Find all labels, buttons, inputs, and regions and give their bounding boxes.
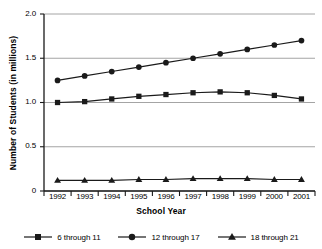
marker-circle xyxy=(272,42,278,48)
chart-container: 00.51.01.52.0 19921993199419951996199719… xyxy=(0,0,322,249)
legend-marker-circle xyxy=(117,231,147,243)
legend-item: 6 through 11 xyxy=(23,231,100,243)
legend-marker-triangle xyxy=(217,231,247,243)
x-tick-label: 2001 xyxy=(285,192,317,201)
marker-square xyxy=(245,90,250,95)
chart-legend: 6 through 1112 through 1718 through 21 xyxy=(0,231,322,243)
x-axis-title: School Year xyxy=(0,206,322,216)
y-axis-title: Number of Students (in millions) xyxy=(8,18,18,188)
marker-square xyxy=(136,94,141,99)
marker-circle xyxy=(129,234,135,240)
y-tick-label: 2.0 xyxy=(10,9,36,18)
series-line xyxy=(58,179,302,181)
marker-square xyxy=(299,96,304,101)
marker-circle xyxy=(136,64,142,70)
marker-circle xyxy=(82,73,88,79)
marker-square xyxy=(190,90,195,95)
marker-circle xyxy=(109,69,115,75)
marker-circle xyxy=(244,47,250,53)
marker-circle xyxy=(299,38,305,44)
marker-circle xyxy=(55,78,61,84)
series-18-through-21 xyxy=(54,175,305,183)
series-12-through-17 xyxy=(55,38,305,84)
marker-circle xyxy=(190,55,196,61)
marker-square xyxy=(35,234,41,240)
legend-item: 18 through 21 xyxy=(217,231,299,243)
series-line xyxy=(58,92,302,103)
marker-square xyxy=(272,93,277,98)
legend-item: 12 through 17 xyxy=(117,231,199,243)
marker-square xyxy=(55,100,60,105)
legend-label: 12 through 17 xyxy=(151,233,199,242)
legend-label: 6 through 11 xyxy=(57,233,100,242)
data-series-layer xyxy=(54,38,305,183)
series-line xyxy=(58,41,302,81)
marker-square xyxy=(82,99,87,104)
legend-label: 18 through 21 xyxy=(251,233,299,242)
marker-circle xyxy=(217,51,223,57)
marker-square xyxy=(109,96,114,101)
marker-circle xyxy=(163,60,169,66)
legend-marker-square xyxy=(23,231,53,243)
marker-square xyxy=(163,92,168,97)
marker-square xyxy=(218,89,223,94)
